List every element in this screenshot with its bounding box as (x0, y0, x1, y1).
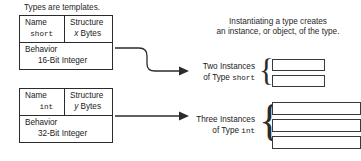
arrow-int-icon (113, 110, 193, 122)
instance-box (272, 102, 361, 115)
instance-box (272, 75, 325, 87)
left-caption: Types are templates. (24, 3, 100, 13)
type-box-short-structure-label: Structure (70, 18, 107, 29)
type-box-int-structure-cell: Structure y Bytes (65, 89, 112, 115)
type-box-int-header-row: Name int Structure y Bytes (20, 89, 112, 116)
type-box-short-behavior-cell: Behavior 16-Bit Integer (20, 43, 112, 69)
type-box-short: Name short Structure x Bytes Behavior 16… (19, 15, 113, 70)
instance-group-short-label: Two Instances of Type short (193, 62, 255, 83)
instance-group-int-label-type: int (241, 127, 255, 135)
instance-group-short-label-line-1: Two Instances (203, 62, 255, 71)
instance-group-int-boxes (272, 102, 361, 149)
instance-group-int-label-line-2-prefix: of Type (212, 126, 241, 135)
type-box-int: Name int Structure y Bytes Behavior 32-B… (19, 88, 113, 143)
type-box-int-name-value: int (25, 102, 59, 113)
type-box-short-name-label: Name (25, 18, 59, 29)
type-box-short-structure-cell: Structure x Bytes (65, 16, 112, 42)
arrow-short-icon (113, 44, 193, 76)
type-box-short-structure-unit: Bytes (78, 29, 101, 38)
instance-box (272, 136, 361, 149)
type-box-int-structure-value: y Bytes (70, 102, 107, 113)
right-caption-line-1: Instantiating a type creates (208, 17, 348, 27)
type-box-short-name-value: short (25, 29, 59, 40)
type-box-int-name-label: Name (25, 91, 59, 102)
type-box-short-behavior-row: Behavior 16-Bit Integer (20, 43, 112, 69)
type-box-int-behavior-cell: Behavior 32-Bit Integer (20, 116, 112, 142)
type-box-short-structure-value: x Bytes (70, 29, 107, 40)
type-box-short-header-row: Name short Structure x Bytes (20, 16, 112, 43)
right-caption: Instantiating a type creates an instance… (208, 17, 348, 37)
type-box-int-behavior-label: Behavior (25, 118, 107, 129)
type-box-short-behavior-value: 16-Bit Integer (25, 56, 107, 67)
type-box-int-structure-unit: Bytes (78, 102, 101, 111)
type-box-short-behavior-label: Behavior (25, 45, 107, 56)
type-box-int-structure-label: Structure (70, 91, 107, 102)
type-box-short-name-cell: Name short (20, 16, 65, 42)
instance-group-short-label-line-2-prefix: of Type (203, 73, 232, 82)
instance-box (272, 59, 325, 71)
type-box-int-name-cell: Name int (20, 89, 65, 115)
instance-group-short-boxes (272, 59, 325, 87)
instance-group-int-label-line-1: Three Instances (196, 115, 255, 124)
right-caption-line-2: an instance, or object, of the type. (208, 27, 348, 37)
instance-box (272, 119, 361, 132)
instance-group-short-label-type: short (232, 74, 255, 82)
instance-group-int-label: Three Instances of Type int (193, 115, 255, 136)
type-box-int-behavior-value: 32-Bit Integer (25, 129, 107, 140)
type-box-int-behavior-row: Behavior 32-Bit Integer (20, 116, 112, 142)
